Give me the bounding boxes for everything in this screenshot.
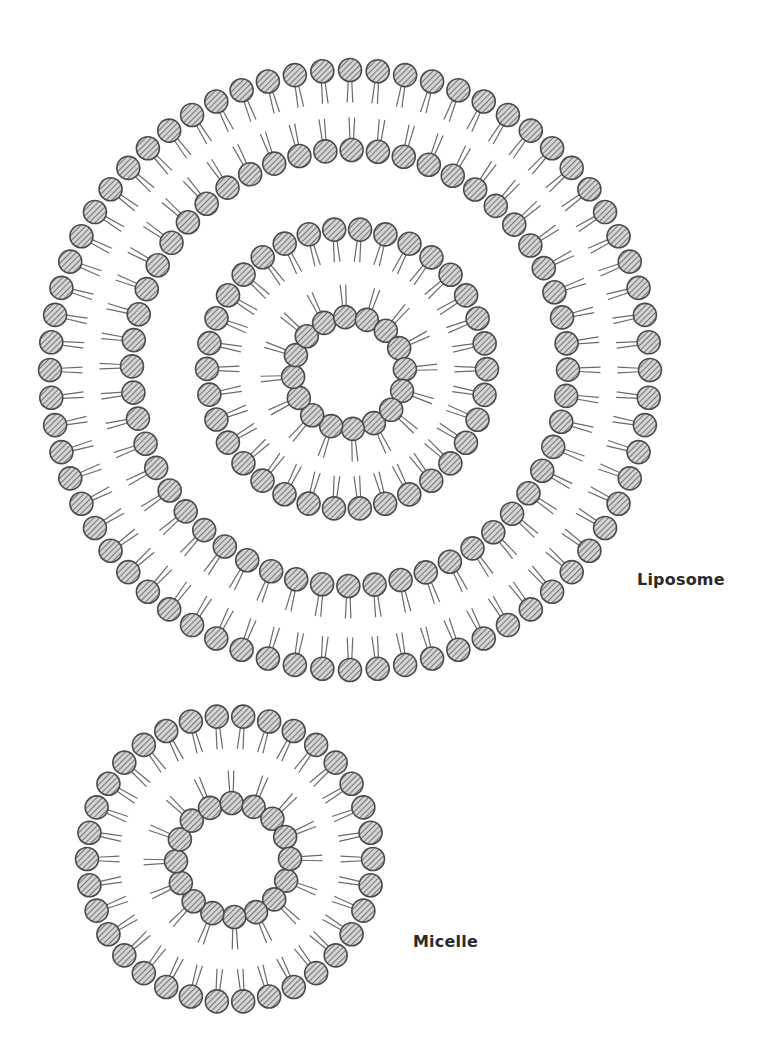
lipid-tail <box>100 363 122 364</box>
lipid-tail <box>62 392 84 395</box>
lipid-tail <box>319 119 323 141</box>
lipid-tail <box>116 791 134 803</box>
lipid-head <box>205 408 228 431</box>
lipid-head <box>519 234 542 257</box>
lipid-head <box>181 103 204 126</box>
lipid-head <box>366 60 389 83</box>
lipid-molecule <box>159 500 197 535</box>
lipid-head <box>134 432 157 455</box>
lipid-tail <box>105 216 124 227</box>
lipid-tail <box>232 928 233 950</box>
lipid-tail <box>409 336 429 345</box>
lipid-tail <box>92 239 112 248</box>
lipid-molecule <box>233 144 262 186</box>
lipid-head <box>179 710 202 733</box>
lipid-tail <box>449 618 456 639</box>
lipid-head <box>50 276 73 299</box>
lipid-tail <box>220 391 242 394</box>
lipid-tail <box>415 364 437 367</box>
lipid-tail <box>236 302 254 314</box>
lipid-tail <box>612 422 634 425</box>
lipid-tail <box>355 439 358 461</box>
lipid-head <box>311 60 334 83</box>
lipid-tail <box>453 347 474 352</box>
lipid-tail <box>377 636 378 658</box>
lipid-head <box>352 796 375 819</box>
lipid-head <box>76 848 99 871</box>
lipid-head <box>132 733 155 756</box>
lipid-molecule <box>311 573 334 617</box>
lipid-head <box>305 962 328 985</box>
lipid-molecule <box>181 103 212 144</box>
lipid-tail <box>219 347 240 352</box>
lipid-head <box>392 145 415 168</box>
lipid-tail <box>144 498 162 511</box>
lipid-molecule <box>332 796 375 822</box>
lipid-molecule <box>181 596 212 637</box>
lipid-tail <box>616 342 638 343</box>
lipid-tail <box>493 596 504 615</box>
lipid-head <box>85 899 108 922</box>
lipid-tail <box>262 582 269 603</box>
lipid-molecule <box>256 70 279 114</box>
lipid-molecule <box>179 710 202 754</box>
lipid-molecule <box>169 890 205 927</box>
lipid-tail <box>116 915 134 927</box>
lipid-molecule <box>278 847 322 870</box>
lipid-tail <box>396 633 401 654</box>
lipid-molecule <box>107 303 151 326</box>
lipid-tail <box>322 636 323 658</box>
lipid-head <box>260 560 283 583</box>
lipid-tail <box>236 423 254 435</box>
lipid-molecule <box>288 124 311 168</box>
lipid-molecule <box>263 888 300 924</box>
lipid-tail <box>286 589 292 610</box>
lipid-head <box>341 417 364 440</box>
lipid-head <box>398 232 421 255</box>
lipid-tail <box>325 637 328 659</box>
lipid-tail <box>169 957 178 977</box>
lipid-head <box>393 358 416 381</box>
lipid-head <box>263 152 286 175</box>
lipid-tail <box>262 921 272 941</box>
lipid-molecule <box>341 417 364 461</box>
lipid-tail <box>332 809 353 816</box>
lipid-tail <box>108 304 129 310</box>
lipid-head <box>519 598 542 621</box>
lipid-head <box>232 990 255 1013</box>
lipid-head <box>380 398 403 421</box>
lipid-tail <box>216 969 217 991</box>
lipid-tail <box>99 368 121 369</box>
liposome-label: Liposome <box>637 570 725 589</box>
lipid-head <box>578 178 601 201</box>
lipid-tail <box>295 632 298 654</box>
lipid-tail <box>579 367 601 368</box>
lipid-head <box>305 733 328 756</box>
lipid-molecule <box>183 177 218 215</box>
lipid-molecule <box>618 359 662 382</box>
lipid-molecule <box>155 957 183 999</box>
lipid-head <box>618 250 641 273</box>
lipid-tail <box>101 392 123 393</box>
lipid-tail <box>372 82 375 104</box>
lipid-tail <box>446 321 467 328</box>
lipid-tail <box>294 821 314 831</box>
lipid-tail <box>199 123 211 141</box>
lipid-molecule <box>76 848 120 871</box>
lipid-head <box>542 435 565 458</box>
lipid-molecule <box>205 307 248 333</box>
lipid-tail <box>234 570 243 590</box>
lipid-head <box>466 408 489 431</box>
lipid-tail <box>90 243 109 254</box>
lipid-tail <box>107 423 128 429</box>
lipid-tail <box>65 319 86 324</box>
lipid-tail <box>459 148 470 167</box>
lipid-tail <box>118 788 137 799</box>
lipid-molecule <box>323 218 346 262</box>
lipid-molecule <box>482 521 517 559</box>
lipid-molecule <box>339 638 362 682</box>
lipid-tail <box>397 464 406 484</box>
lipid-head <box>282 365 305 388</box>
lipid-head <box>198 383 221 406</box>
lipid-head <box>297 492 320 515</box>
